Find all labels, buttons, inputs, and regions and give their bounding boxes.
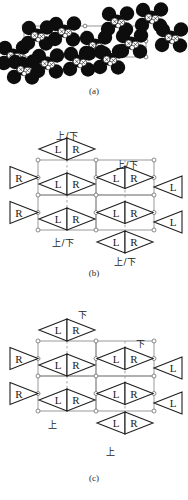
- orientation-label-bottom-left: 上: [48, 420, 57, 430]
- triangle-label: L: [113, 172, 120, 184]
- triangle-outer-left-top: R: [10, 348, 38, 370]
- triangle-label: L: [55, 143, 62, 155]
- triangle-block3-L: L: [97, 348, 125, 370]
- triangle-top-left-pair-L: L: [39, 138, 67, 160]
- panel-b-lattice: R R L L L: [0, 130, 188, 280]
- triangle-outer-right-top: L: [154, 176, 182, 198]
- triangle-label: R: [130, 417, 138, 429]
- triangle-block1-R: R: [67, 173, 95, 195]
- orientation-label-top-right: 下: [136, 339, 145, 349]
- triangle-outer-left-bottom: R: [10, 383, 38, 405]
- figure-root: (a): [0, 0, 188, 500]
- panel-a-diagram: [0, 0, 188, 100]
- triangle-label: L: [113, 207, 120, 219]
- triangle-label: R: [130, 388, 138, 400]
- triangle-label: R: [15, 388, 23, 400]
- triangle-label: R: [72, 394, 80, 406]
- panel-a-caption: (a): [0, 86, 188, 96]
- triangle-label: R: [130, 236, 138, 248]
- triangle-block4-L: L: [97, 383, 125, 405]
- triangle-block2-R: R: [67, 389, 95, 411]
- triangle-label: L: [113, 353, 120, 365]
- triangle-label: L: [55, 324, 62, 336]
- panel-c-lattice: R R L L L: [0, 303, 188, 500]
- triangle-label: R: [15, 353, 23, 365]
- triangle-block4-R: R: [125, 202, 153, 224]
- triangle-bottom-right-pair-L: L: [97, 231, 125, 253]
- orientation-label-bottom-right: 上/下: [114, 257, 135, 267]
- triangle-label: R: [130, 172, 138, 184]
- triangle-block3-R: R: [125, 348, 153, 370]
- triangle-label: L: [113, 417, 120, 429]
- triangle-block1-L: L: [39, 354, 67, 376]
- triangle-bottom-right-pair-R: R: [125, 231, 153, 253]
- panel-b-svg-wrap: R R L L L: [0, 130, 188, 280]
- triangle-outer-right-top: L: [154, 357, 182, 379]
- triangle-label: R: [72, 324, 80, 336]
- triangle-block2-L: L: [39, 389, 67, 411]
- triangle-label: R: [130, 353, 138, 365]
- orientation-label-bottom-left: 上/下: [52, 238, 73, 248]
- triangle-bottom-right-pair-L: L: [97, 412, 125, 434]
- triangle-label: L: [113, 388, 120, 400]
- orientation-label-bottom-right: 上: [106, 447, 115, 457]
- triangle-label: R: [130, 207, 138, 219]
- triangle-outer-right-bottom: L: [154, 392, 182, 414]
- triangle-outer-left-top: R: [10, 167, 38, 189]
- triangle-label: L: [170, 362, 177, 374]
- panel-c-svg-wrap: R R L L L: [0, 303, 188, 468]
- triangle-label: L: [113, 236, 120, 248]
- triangle-label: L: [170, 216, 177, 228]
- panel-b-diagram: R R L L L: [0, 130, 188, 280]
- orientation-label-top-left: 上/下: [56, 131, 77, 141]
- triangle-outer-left-bottom: R: [10, 202, 38, 224]
- triangle-label: R: [72, 178, 80, 190]
- triangle-block4-L: L: [97, 202, 125, 224]
- triangle-block2-L: L: [39, 208, 67, 230]
- triangle-block1-L: L: [39, 173, 67, 195]
- triangle-label: L: [55, 213, 62, 225]
- panel-b-caption: (b): [0, 268, 188, 278]
- molecule-cluster: [0, 2, 188, 84]
- triangle-label: L: [170, 397, 177, 409]
- triangle-label: L: [55, 394, 62, 406]
- triangle-top-left-pair-L: L: [39, 319, 67, 341]
- panel-c-caption: (c): [0, 473, 188, 483]
- triangle-top-left-pair-R: R: [67, 138, 95, 160]
- triangle-top-left-pair-R: R: [67, 319, 95, 341]
- triangle-label: R: [15, 172, 23, 184]
- triangle-label: L: [170, 181, 177, 193]
- panel-a-molecular-packing: (a): [0, 0, 188, 100]
- triangle-bottom-right-pair-R: R: [125, 412, 153, 434]
- orientation-label-top-right: 上/下: [116, 160, 137, 170]
- triangle-label: R: [72, 213, 80, 225]
- triangle-label: L: [55, 178, 62, 190]
- triangle-label: L: [55, 359, 62, 371]
- triangle-label: R: [72, 143, 80, 155]
- triangle-block4-R: R: [125, 383, 153, 405]
- triangle-label: R: [72, 359, 80, 371]
- triangle-block1-R: R: [67, 354, 95, 376]
- panel-c-diagram: R R L L L: [0, 303, 188, 468]
- triangle-outer-right-bottom: L: [154, 211, 182, 233]
- triangle-block2-R: R: [67, 208, 95, 230]
- triangle-label: R: [15, 207, 23, 219]
- orientation-label-top-left: 下: [78, 310, 87, 320]
